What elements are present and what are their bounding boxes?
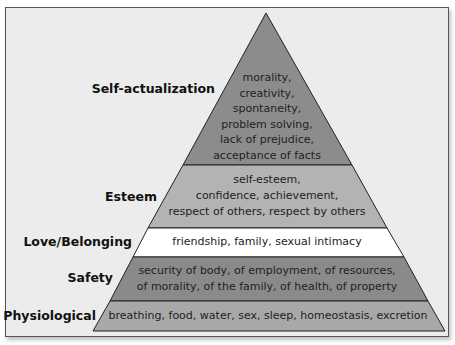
desc-esteem: self-esteem, confidence, achievement, re…: [169, 172, 366, 220]
desc-love-belonging: friendship, family, sexual intimacy: [172, 234, 361, 250]
label-safety: Safety: [68, 270, 113, 285]
label-love-belonging: Love/Belonging: [23, 234, 132, 249]
desc-physiological: breathing, food, water, sex, sleep, home…: [108, 308, 427, 324]
label-physiological: Physiological: [3, 308, 96, 323]
label-esteem: Esteem: [105, 189, 157, 204]
desc-safety: security of body, of employment, of reso…: [137, 263, 397, 295]
label-self-actualization: Self-actualization: [92, 81, 215, 96]
desc-self-actualization: morality, creativity, spontaneity, probl…: [213, 70, 321, 163]
